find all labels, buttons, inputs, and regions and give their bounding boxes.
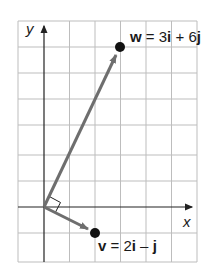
vector-v bbox=[44, 207, 88, 229]
vector-w bbox=[44, 55, 116, 207]
grid bbox=[18, 21, 197, 262]
w-label: w = 3i + 6j bbox=[130, 28, 201, 45]
x-axis-label: x bbox=[183, 213, 191, 230]
v-label: v = 2i – j bbox=[98, 237, 157, 254]
point-w bbox=[115, 42, 125, 52]
w-symbol: w bbox=[130, 28, 142, 45]
y-axis-label: y bbox=[26, 20, 34, 37]
